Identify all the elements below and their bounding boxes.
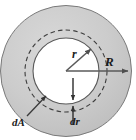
disk-annulus-diagram: R r dr dA: [0, 0, 136, 140]
label-outer-radius-R: R: [104, 54, 114, 69]
label-inner-radius-r: r: [72, 47, 77, 61]
label-thickness-dr: dr: [70, 115, 81, 127]
physics-figure-disk-annulus: R r dr dA: [0, 0, 136, 140]
label-area-element-dA: dA: [12, 116, 25, 128]
